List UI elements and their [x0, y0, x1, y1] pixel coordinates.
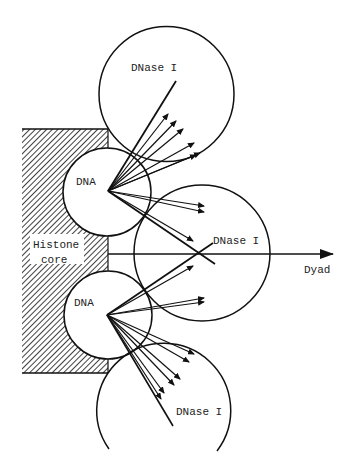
histone-core-label-line2: core	[41, 254, 67, 266]
dnase-circle-top	[99, 27, 234, 162]
dna-upper-label: DNA	[76, 176, 96, 188]
dyad-axis: Dyad	[108, 254, 333, 276]
dyad-label: Dyad	[304, 264, 330, 276]
dnase-middle-label: DNase I	[213, 235, 259, 247]
histone-core-label-line1: Histone	[33, 239, 79, 251]
dna-lower-label: DNA	[74, 297, 94, 309]
dnase-bottom-label: DNase I	[176, 406, 222, 418]
dna-circle-upper	[63, 148, 151, 236]
dnase-top-label: DNase I	[131, 62, 177, 74]
nucleosome-dnase-diagram: Histone core Dyad	[0, 0, 354, 474]
dnase-circle-bottom	[97, 343, 231, 451]
